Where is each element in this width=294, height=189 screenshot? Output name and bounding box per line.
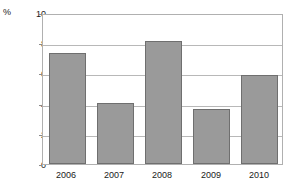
bar-2008 [145, 41, 182, 164]
x-tick-label: 2007 [90, 170, 138, 180]
bars-layer [43, 15, 282, 164]
x-tick-label: 2009 [187, 170, 235, 180]
plot-area [42, 14, 283, 165]
bar-2010 [241, 75, 278, 164]
y-axis-unit-label: % [3, 7, 11, 17]
x-tick-label: 2006 [42, 170, 90, 180]
y-tick-mark [39, 165, 42, 166]
x-tick-label: 2008 [138, 170, 186, 180]
bar-2007 [97, 103, 134, 164]
bar-2006 [49, 53, 86, 164]
bar-chart: % 0246810 20062007200820092010 [0, 0, 294, 189]
x-tick-label: 2010 [235, 170, 283, 180]
bar-2009 [193, 109, 230, 164]
